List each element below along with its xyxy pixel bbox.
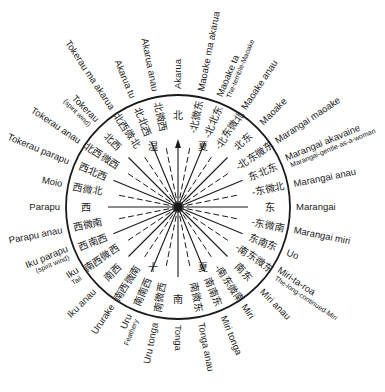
maori-wind-label: Marangai miri bbox=[293, 224, 352, 246]
maori-wind-label: Ururake bbox=[89, 302, 117, 336]
compass-ray bbox=[178, 207, 212, 259]
maori-wind-label: Parapu anau bbox=[8, 224, 64, 245]
chinese-direction-label: 东 bbox=[265, 201, 275, 213]
maori-wind-label: Tonga bbox=[173, 325, 184, 352]
chinese-direction-label: 西 bbox=[81, 202, 91, 213]
maori-wind-label: Akarua tu bbox=[113, 58, 139, 100]
wind-name: Marangai anau bbox=[293, 166, 357, 189]
maori-wind-label: Tonga anau bbox=[196, 322, 216, 373]
maori-wind-label: Tokerau(spirit wind) bbox=[61, 90, 101, 130]
chinese-direction-label: -东微北 bbox=[251, 179, 286, 197]
maori-wind-label: Akarua anau bbox=[140, 37, 161, 92]
maori-wind-label: Uo bbox=[285, 247, 300, 262]
compass-ray bbox=[129, 207, 178, 256]
maori-wind-label: Maoake bbox=[257, 95, 289, 127]
chinese-direction-label: -北微东 bbox=[186, 99, 204, 134]
wind-name: Akarua bbox=[172, 58, 183, 89]
maori-wind-label: Miri bbox=[239, 302, 257, 321]
maori-wind-label: Moio bbox=[41, 174, 63, 189]
maori-wind-label: UruFeathery bbox=[112, 312, 141, 347]
compass-rose-diagram: 北-北微东-北北东-北东微北北东-北东微东东北东-东微北东-东微南东南东-南东微… bbox=[0, 0, 385, 392]
wind-name: Maoake ma akarua bbox=[195, 10, 222, 93]
compass-ray bbox=[126, 207, 178, 241]
maori-wind-label: Marangai bbox=[296, 201, 336, 212]
wind-name: Miri anau bbox=[258, 286, 293, 321]
chinese-direction-label: 南微东 bbox=[188, 281, 206, 313]
wind-name: Parapu bbox=[29, 201, 60, 212]
compass-ray bbox=[144, 155, 178, 207]
chinese-direction-label: 北微西 bbox=[152, 101, 170, 133]
maori-wind-label: Iku anau bbox=[65, 286, 99, 320]
maori-wind-label: Miri anau bbox=[258, 286, 293, 321]
inner-mark: 夏 bbox=[198, 141, 208, 152]
wind-name: Iku anau bbox=[65, 286, 99, 320]
maori-wind-label: Parapu bbox=[29, 201, 60, 212]
wind-name: Tonga bbox=[173, 325, 184, 352]
wind-name: Miri bbox=[239, 302, 257, 321]
wind-name: Akarua anau bbox=[140, 37, 161, 92]
wind-name: Uo bbox=[285, 247, 300, 262]
maori-wind-label: Tokerau parapu bbox=[6, 131, 71, 166]
inner-mark: 十 bbox=[148, 261, 158, 273]
compass-ray bbox=[178, 173, 230, 207]
wind-name: Akarua tu bbox=[113, 58, 139, 100]
maori-wind-label: Maoake ma akarua bbox=[195, 10, 222, 93]
inner-mark: 夏 bbox=[198, 262, 208, 273]
chinese-direction-label: -东微南 bbox=[251, 215, 286, 233]
chinese-direction-label: 南东 bbox=[232, 260, 255, 283]
wind-name: Tonga anau bbox=[196, 322, 216, 373]
north-arrow-head bbox=[175, 139, 181, 148]
compass-ray bbox=[178, 155, 212, 207]
wind-name: Maoake bbox=[257, 95, 289, 127]
inner-mark: 湿 bbox=[148, 141, 158, 152]
compass-ray bbox=[178, 207, 227, 256]
compass-ray bbox=[129, 158, 178, 207]
chinese-direction-label: 南西 bbox=[101, 260, 124, 283]
chinese-direction-label: 西微北 bbox=[72, 180, 104, 198]
wind-name: Ururake bbox=[89, 302, 117, 336]
wind-name: Marangai bbox=[296, 201, 336, 212]
maori-wind-label: Marangai anau bbox=[293, 166, 357, 189]
chinese-direction-label: 北 bbox=[173, 110, 183, 121]
chinese-direction-label: 南 bbox=[173, 293, 183, 305]
maori-wind-label: Miri tonga bbox=[219, 314, 245, 357]
maori-wind-label: Uru tonga bbox=[141, 321, 160, 365]
wind-name: Moio bbox=[41, 174, 63, 189]
wind-name: Parapu anau bbox=[8, 224, 64, 245]
compass-ray bbox=[178, 158, 227, 207]
chinese-direction-label: 北西 bbox=[102, 131, 124, 153]
compass-ray bbox=[178, 207, 230, 241]
chinese-direction-label: 南微西 bbox=[151, 281, 169, 313]
maori-wind-label: Akarua bbox=[172, 58, 183, 89]
wind-name: Marangai miri bbox=[293, 224, 352, 246]
wind-name: Miri tonga bbox=[219, 314, 245, 357]
chinese-direction-label: 北东 bbox=[231, 130, 254, 153]
wind-name: Uru tonga bbox=[141, 321, 160, 365]
maori-wind-label: IkuTail bbox=[64, 264, 85, 286]
compass-ray bbox=[144, 207, 178, 259]
compass-ray bbox=[126, 173, 178, 207]
chinese-direction-label: 西微南 bbox=[72, 216, 104, 234]
wind-name: Tokerau parapu bbox=[6, 131, 71, 166]
